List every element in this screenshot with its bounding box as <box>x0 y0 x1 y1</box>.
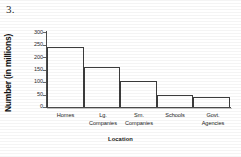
x-label-govt-line2: Agencies <box>192 119 234 127</box>
bar-schools <box>157 95 193 108</box>
y-tick-label-0: 0 <box>1 103 43 109</box>
bar-lg-companies <box>84 67 120 107</box>
x-label-homes-line1: Homes <box>47 111 84 119</box>
bar-chart: Number (in millions) 300 250 200 150 100… <box>0 0 241 157</box>
y-tick-label-100: 100 <box>1 78 43 84</box>
x-label-govt-line1: Govt. <box>192 111 234 119</box>
bar-govt-agencies <box>193 97 230 107</box>
bar-homes <box>47 47 84 107</box>
y-tick-label-250: 250 <box>1 41 43 47</box>
x-axis-line <box>46 107 231 108</box>
worksheet-page: 3. Number (in millions) 300 250 200 150 … <box>0 0 241 157</box>
x-axis-title: Location <box>0 136 241 142</box>
y-tick-label-50: 50 <box>1 91 43 97</box>
y-tick-label-200: 200 <box>1 54 43 60</box>
bar-sm-companies <box>120 81 157 107</box>
x-label-govt-agencies: Govt. Agencies <box>192 111 234 127</box>
x-label-sm-companies: Sm. Companies <box>118 111 160 127</box>
y-tick-label-150: 150 <box>1 66 43 72</box>
x-label-schools: Schools <box>155 111 195 119</box>
x-label-homes: Homes <box>47 111 84 119</box>
x-label-sm-line2: Companies <box>118 119 160 127</box>
y-tick-label-300: 300 <box>1 29 43 35</box>
x-label-sm-line1: Sm. <box>118 111 160 119</box>
x-axis-shadow <box>47 108 232 109</box>
plot-area <box>47 32 230 107</box>
x-label-schools-line1: Schools <box>155 111 195 119</box>
y-axis-tick-labels: 300 250 200 150 100 50 0 <box>0 0 43 157</box>
